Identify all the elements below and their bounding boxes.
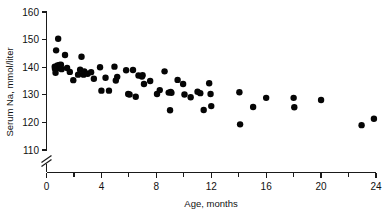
data-point xyxy=(88,69,94,75)
data-point xyxy=(206,80,212,86)
x-axis: 04812162024 xyxy=(44,173,382,193)
x-tick-label: 24 xyxy=(370,181,382,192)
y-tick-label: 140 xyxy=(22,62,39,73)
x-axis-title: Age, months xyxy=(184,198,238,209)
data-point xyxy=(318,97,324,103)
x-tick-label: 16 xyxy=(261,181,273,192)
y-tick-label: 110 xyxy=(23,145,39,156)
data-point xyxy=(78,54,84,60)
data-point xyxy=(130,67,136,73)
x-tick-label: 12 xyxy=(206,181,218,192)
x-tick-label: 20 xyxy=(316,181,328,192)
data-point xyxy=(141,81,147,87)
data-point xyxy=(133,94,139,100)
data-point xyxy=(208,103,214,109)
data-point xyxy=(53,47,59,53)
scatter-plot-figure: 110120130140150160 04812162024 Age, mont… xyxy=(0,0,389,217)
data-point xyxy=(114,74,120,80)
data-point xyxy=(147,78,153,84)
data-point xyxy=(70,77,76,83)
data-point xyxy=(371,116,377,122)
y-tick-label: 150 xyxy=(22,34,39,45)
data-point xyxy=(97,64,103,70)
data-point xyxy=(290,95,296,101)
data-point xyxy=(207,91,213,97)
data-point xyxy=(180,81,186,87)
data-point xyxy=(174,77,180,83)
data-point xyxy=(197,90,203,96)
y-axis-tick-labels: 110120130140150160 xyxy=(22,7,39,156)
data-point xyxy=(237,121,243,127)
data-point xyxy=(236,89,242,95)
data-point xyxy=(126,91,132,97)
data-point xyxy=(181,91,187,97)
data-point xyxy=(157,87,163,93)
data-point xyxy=(263,95,269,101)
y-axis-title: Serum Na, mmol/liter xyxy=(4,47,15,136)
data-point xyxy=(167,107,173,113)
data-point xyxy=(55,36,61,42)
x-tick-label: 0 xyxy=(44,181,50,192)
y-tick-label: 160 xyxy=(22,7,39,18)
data-point xyxy=(91,76,97,82)
data-point xyxy=(106,87,112,93)
data-point xyxy=(123,67,129,73)
data-point xyxy=(187,94,193,100)
data-point xyxy=(102,74,108,80)
data-point xyxy=(358,122,364,128)
y-axis: 110120130140150160 xyxy=(22,7,51,173)
data-point xyxy=(98,87,104,93)
data-point xyxy=(168,90,174,96)
y-tick-label: 130 xyxy=(22,89,39,100)
x-axis-tick-labels: 04812162024 xyxy=(44,181,382,192)
y-tick-label: 120 xyxy=(22,117,39,128)
x-tick-label: 8 xyxy=(154,181,160,192)
data-point xyxy=(139,72,145,78)
data-point xyxy=(62,52,68,58)
data-point xyxy=(291,104,297,110)
data-point xyxy=(111,63,117,69)
chart-canvas: 110120130140150160 04812162024 Age, mont… xyxy=(0,0,389,217)
scatter-points-group xyxy=(52,36,378,129)
data-point xyxy=(67,69,73,75)
data-point xyxy=(58,66,64,72)
x-axis-major-ticks xyxy=(47,173,377,179)
y-axis-ticks xyxy=(42,12,47,150)
data-point xyxy=(201,107,207,113)
x-tick-label: 4 xyxy=(99,181,105,192)
data-point xyxy=(161,68,167,74)
data-point xyxy=(250,104,256,110)
